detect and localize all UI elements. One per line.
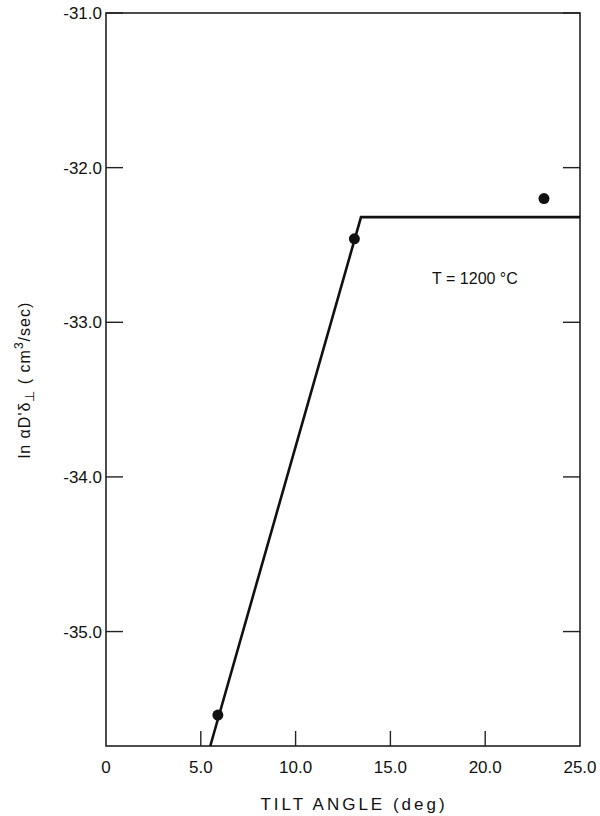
x-tick-label: 0 — [101, 758, 110, 777]
x-tick-label: 15.0 — [374, 758, 407, 777]
x-tick-label: 10.0 — [279, 758, 312, 777]
chart: -31.0-32.0-33.0-34.0-35.0 05.010.015.020… — [0, 0, 600, 816]
x-tick-label: 20.0 — [469, 758, 502, 777]
y-axis-title-text: ln αD'δ⊥ ( cm3/sec) — [12, 302, 37, 459]
y-tick-label: -34.0 — [63, 468, 102, 487]
y-tick-label: -31.0 — [63, 4, 102, 23]
temperature-annotation: T = 1200 °C — [432, 270, 518, 287]
y-axis-title: ln αD'δ⊥ ( cm3/sec) — [12, 302, 37, 459]
data-series — [210, 193, 580, 746]
x-axis: 05.010.015.020.025.0 — [101, 731, 596, 777]
data-point — [349, 233, 360, 244]
x-axis-title: TILT ANGLE (deg) — [260, 795, 447, 814]
y-axis: -31.0-32.0-33.0-34.0-35.0 — [63, 4, 580, 642]
x-tick-label: 5.0 — [189, 758, 213, 777]
data-point — [538, 193, 549, 204]
data-point — [212, 710, 223, 721]
y-tick-label: -35.0 — [63, 623, 102, 642]
plot-frame — [106, 13, 580, 746]
y-tick-label: -33.0 — [63, 313, 102, 332]
plot-border — [106, 13, 580, 746]
y-tick-label: -32.0 — [63, 159, 102, 178]
x-tick-label: 25.0 — [563, 758, 596, 777]
fit-line — [210, 217, 580, 746]
